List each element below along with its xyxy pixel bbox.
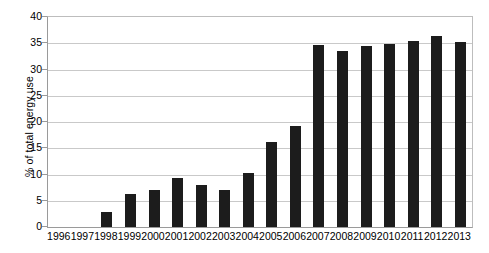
y-axis-tick-label: 10 (30, 168, 42, 180)
bar (243, 173, 254, 227)
bar (361, 46, 372, 227)
bar (196, 185, 207, 227)
bar (313, 45, 324, 227)
x-axis-tick-label: 2012 (424, 230, 447, 242)
x-axis-tick-label: 1996 (47, 230, 70, 242)
x-axis-tick-label: 1997 (71, 230, 94, 242)
y-axis-tick-label: 40 (30, 10, 42, 22)
x-axis-tick-label: 1999 (118, 230, 141, 242)
bar (431, 36, 442, 227)
y-axis-tick-labels: 0510152025303540 (16, 0, 42, 253)
y-axis-tick-label: 35 (30, 36, 42, 48)
x-axis-tick-label: 2005 (259, 230, 282, 242)
x-axis-tick-label: 2009 (353, 230, 376, 242)
bar (290, 126, 301, 227)
y-axis-tick-label: 15 (30, 141, 42, 153)
y-axis-tick-label: 20 (30, 115, 42, 127)
x-axis-tick-label: 2000 (141, 230, 164, 242)
bar-series (48, 17, 472, 227)
bar (337, 51, 348, 227)
bar (125, 194, 136, 227)
x-axis-tick-label: 2008 (330, 230, 353, 242)
x-axis-tick-labels: 1996199719981999200020012002200320042005… (47, 230, 471, 246)
bar (219, 190, 230, 227)
x-axis-tick-label: 2007 (306, 230, 329, 242)
bar (266, 142, 277, 227)
bar (101, 212, 112, 227)
y-axis-tick-label: 30 (30, 63, 42, 75)
x-axis-tick-label: 2002 (188, 230, 211, 242)
x-axis-tick-label: 2004 (236, 230, 259, 242)
x-axis-tick-label: 2013 (448, 230, 471, 242)
x-axis-tick-label: 1998 (94, 230, 117, 242)
x-axis-tick-label: 2010 (377, 230, 400, 242)
plot-area (47, 16, 473, 228)
bar (408, 41, 419, 227)
bar (455, 42, 466, 227)
x-axis-tick-label: 2011 (401, 230, 424, 242)
x-axis-tick-label: 2003 (212, 230, 235, 242)
bar (384, 44, 395, 227)
bar (149, 190, 160, 227)
x-axis-tick-label: 2001 (165, 230, 188, 242)
bar (172, 178, 183, 227)
bar-chart: % of total energy use 0510152025303540 1… (0, 0, 489, 253)
x-axis-tick-label: 2006 (283, 230, 306, 242)
y-axis-tick-label: 25 (30, 89, 42, 101)
